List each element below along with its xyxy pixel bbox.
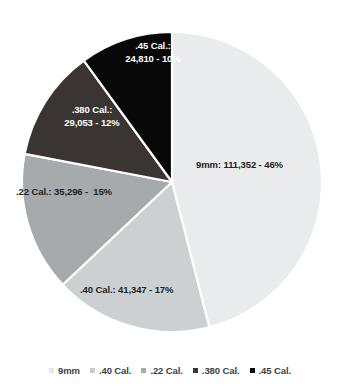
legend-label: .22 Cal. [150, 365, 182, 376]
legend-label: 9mm [58, 365, 80, 376]
pie-plot-area [0, 0, 340, 350]
chart-legend: 9mm.40 Cal..22 Cal..380 Cal..45 Cal. [0, 358, 340, 382]
legend-label: .45 Cal. [259, 365, 291, 376]
legend-item-9mm[interactable]: 9mm [49, 365, 80, 376]
legend-item-380-cal[interactable]: .380 Cal. [193, 365, 240, 376]
pie-svg [0, 0, 340, 350]
legend-item-22-cal[interactable]: .22 Cal. [141, 365, 182, 376]
pie-slice-group [22, 32, 322, 332]
legend-swatch-icon [49, 368, 54, 373]
legend-swatch-icon [193, 368, 198, 373]
legend-swatch-icon [90, 368, 95, 373]
pie-chart: 9mm: 111,352 - 46% .40 Cal.: 41,347 - 17… [0, 0, 340, 387]
legend-item-40-cal[interactable]: .40 Cal. [90, 365, 131, 376]
legend-swatch-icon [141, 368, 146, 373]
legend-label: .380 Cal. [202, 365, 240, 376]
legend-swatch-icon [250, 368, 255, 373]
legend-label: .40 Cal. [99, 365, 131, 376]
legend-item-45-cal[interactable]: .45 Cal. [250, 365, 291, 376]
